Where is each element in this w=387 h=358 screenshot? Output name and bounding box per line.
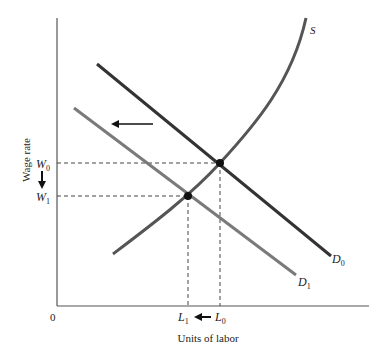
wage-w1-label: W1 (36, 190, 50, 206)
labor-l0-label: L0 (214, 310, 226, 326)
demand-d0-label: D0 (331, 252, 345, 268)
y-axis-title: Wage rate (20, 138, 32, 182)
wage-w0-label: W0 (36, 157, 50, 173)
demand-d1-label: D1 (297, 275, 311, 291)
equilibrium-point-e0 (216, 159, 224, 167)
supply-curve-s (113, 18, 306, 254)
origin-label: 0 (50, 311, 56, 323)
demand-curve-d0 (97, 64, 331, 256)
demand-curve-d1 (74, 108, 296, 275)
labor-market-diagram: S D0 D1 W0 W1 L1 L0 0 Units of labor Wag… (0, 0, 387, 358)
x-axis-title: Units of labor (177, 332, 238, 344)
supply-label: S (310, 24, 316, 36)
labor-l1-label: L1 (177, 310, 189, 326)
equilibrium-point-e1 (184, 192, 192, 200)
